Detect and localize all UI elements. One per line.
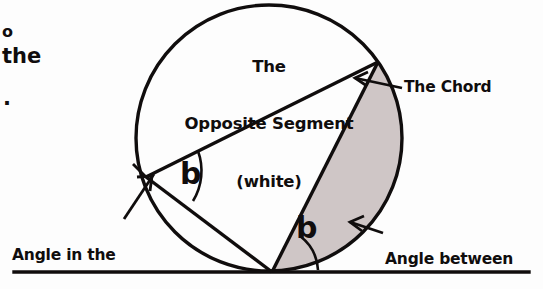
geometry-figure: The Opposite Segment (white) The Chord A… — [0, 0, 543, 289]
angle-label-tangent-chord: b — [296, 212, 317, 244]
caption-line-2: Opposite Segment — [178, 114, 360, 133]
caption-line-1: The — [178, 57, 360, 76]
opposite-segment-caption: The Opposite Segment (white) — [178, 18, 360, 230]
tangent-chord-label-line-1: Angle between — [385, 251, 543, 269]
caption-line-3: (white) — [178, 172, 360, 191]
tangent-chord-angle-label: Angle between tangent and chord — [385, 216, 543, 289]
opposite-segment-label-line-1: Angle in the — [12, 247, 166, 265]
edge-text-fragment-3: . — [3, 86, 11, 110]
edge-text-fragment-1: o — [2, 22, 13, 41]
edge-text-fragment-2: the — [2, 44, 41, 68]
opposite-segment-angle-label: Angle in the opposite segment — [12, 212, 166, 289]
chord-label: The Chord — [404, 79, 492, 95]
angle-label-inscribed: b — [180, 158, 201, 190]
